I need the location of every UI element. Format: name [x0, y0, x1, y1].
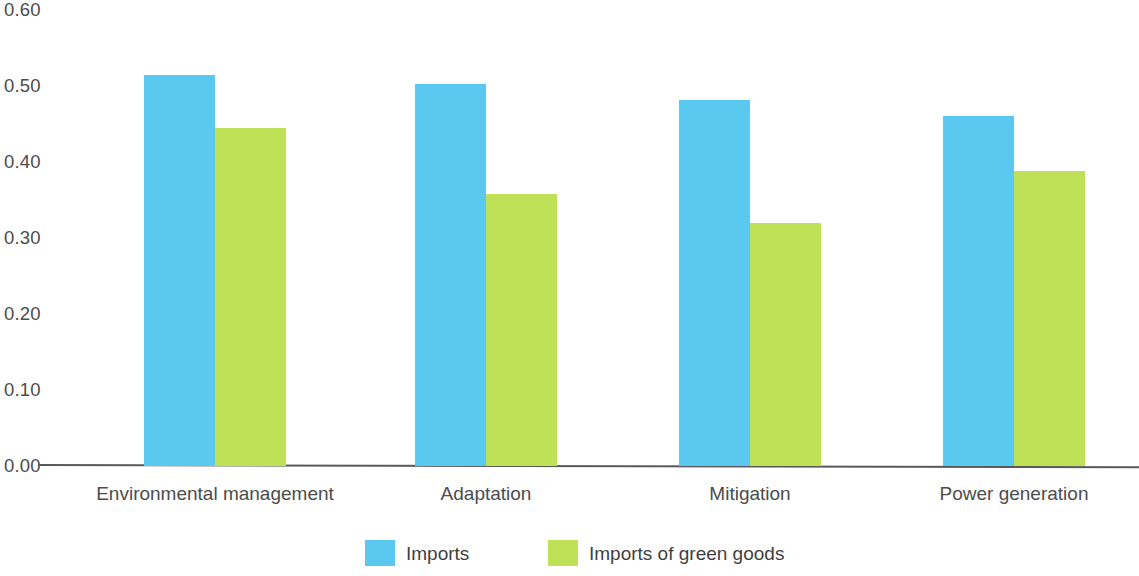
x-axis-category-labels: Environmental managementAdaptationMitiga… — [0, 484, 1139, 516]
plot-area — [0, 0, 1139, 470]
chart-legend: ImportsImports of green goods — [0, 540, 1139, 576]
bar-imports-of-green-goods — [215, 128, 286, 466]
legend-label: Imports — [406, 544, 469, 563]
x-axis-category-label: Power generation — [940, 484, 1089, 505]
bar-imports-of-green-goods — [750, 223, 821, 466]
bar-imports — [679, 100, 750, 466]
x-axis-category-label: Mitigation — [709, 484, 790, 505]
bar-imports-of-green-goods — [1014, 171, 1085, 466]
legend-color-swatch — [548, 540, 578, 566]
bar-imports-of-green-goods — [486, 194, 557, 466]
bar-chart: 0.600.500.400.300.200.100.00 Environment… — [0, 0, 1139, 576]
x-axis-category-label: Environmental management — [96, 484, 334, 505]
legend-item[interactable]: Imports — [365, 540, 469, 566]
legend-color-swatch — [365, 540, 395, 566]
legend-label: Imports of green goods — [589, 544, 784, 563]
x-axis-category-label: Adaptation — [441, 484, 532, 505]
bar-imports — [943, 116, 1014, 466]
legend-item[interactable]: Imports of green goods — [548, 540, 784, 566]
bar-imports — [415, 84, 486, 466]
bar-imports — [144, 75, 215, 466]
